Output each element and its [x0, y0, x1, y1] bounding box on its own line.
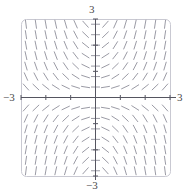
slope-segment — [113, 31, 117, 39]
slope-segment — [64, 52, 68, 60]
slope-segment — [112, 63, 118, 69]
slope-segment — [25, 156, 26, 165]
slope-segment — [154, 20, 155, 29]
slope-segment — [102, 137, 110, 142]
x-axis-max-label: 3 — [177, 92, 183, 103]
slope-segment — [123, 135, 127, 143]
slope-segment — [34, 114, 38, 122]
slope-segment — [34, 62, 37, 71]
slope-segment — [163, 114, 167, 122]
slope-segment — [54, 146, 57, 155]
slope-segment — [134, 146, 137, 155]
slope-segment — [44, 62, 47, 70]
slope-segment — [72, 63, 78, 69]
slope-segment — [74, 156, 78, 164]
slope-segment — [82, 157, 88, 163]
slope-segment — [23, 84, 29, 91]
slope-segment — [64, 166, 67, 175]
slope-segment — [153, 73, 157, 81]
slope-segment — [164, 125, 167, 134]
slope-segment — [74, 20, 78, 28]
slope-segment — [54, 125, 58, 133]
slope-segment — [124, 146, 127, 154]
slope-segment — [24, 72, 28, 80]
slope-segment — [162, 105, 168, 112]
slope-segment — [63, 62, 68, 69]
slope-segment — [35, 145, 37, 154]
slope-segment — [71, 86, 80, 89]
slope-segment — [101, 64, 109, 68]
slope-segment — [44, 135, 47, 144]
slope-segment — [152, 105, 159, 111]
slope-segment — [25, 145, 27, 154]
slope-segment — [154, 41, 156, 50]
slope-segment — [112, 74, 120, 79]
slope-segment — [81, 107, 90, 108]
slope-segment — [133, 125, 137, 133]
slope-segment — [83, 21, 89, 28]
slope-segment — [101, 75, 110, 78]
slope-segment — [114, 20, 118, 28]
slope-segment — [114, 167, 118, 175]
slope-segment — [52, 106, 60, 111]
slope-segment — [64, 156, 67, 165]
slope-segment — [131, 85, 139, 90]
slope-segment — [42, 105, 49, 111]
slope-segment — [101, 117, 110, 120]
slope-segment — [154, 51, 156, 60]
slope-segment — [45, 156, 47, 165]
slope-segment — [131, 106, 139, 111]
slope-segment — [55, 30, 57, 39]
slope-segment — [164, 145, 166, 154]
slope-segment — [64, 146, 67, 154]
slope-segment — [72, 116, 80, 121]
slope-segment — [132, 73, 138, 80]
slope-segment — [43, 115, 48, 123]
slope-segment — [124, 156, 127, 165]
x-axis-min-label: −3 — [3, 92, 15, 103]
slope-segment — [33, 84, 40, 90]
slope-segment — [62, 73, 68, 79]
slope-segment — [74, 31, 78, 39]
slope-segment — [34, 125, 37, 133]
slope-field-figure: 3 −3 −3 3 — [0, 0, 188, 195]
slope-segment — [102, 157, 108, 163]
slope-segment — [102, 32, 108, 38]
slope-segment — [82, 53, 90, 58]
slope-segment — [144, 156, 146, 165]
slope-segment — [81, 75, 90, 78]
slope-segment — [71, 107, 80, 110]
slope-segment — [72, 126, 78, 132]
slope-segment — [142, 84, 149, 90]
slope-segment — [33, 105, 40, 111]
slope-segment — [82, 64, 90, 68]
slope-segment — [144, 166, 146, 175]
slope-segment — [53, 73, 59, 80]
slope-segment — [25, 125, 28, 134]
slope-segment — [44, 125, 47, 133]
slope-segment — [122, 115, 129, 121]
slope-segment — [45, 41, 47, 50]
slope-segment — [55, 20, 57, 29]
slope-segment — [111, 107, 120, 110]
slope-segment — [102, 21, 108, 28]
slope-segment — [25, 41, 27, 50]
slope-segment — [25, 51, 27, 60]
slope-segment — [102, 53, 110, 58]
slope-segment — [82, 137, 90, 142]
slope-segment — [134, 135, 137, 143]
slope-segment — [74, 167, 78, 175]
slope-segment — [55, 166, 57, 175]
slope-segment — [35, 51, 37, 60]
plot-canvas — [0, 0, 188, 195]
slope-segment — [142, 105, 149, 111]
slope-segment — [34, 73, 38, 81]
slope-segment — [144, 145, 146, 154]
slope-segment — [45, 166, 47, 175]
slope-segment — [152, 84, 159, 90]
slope-segment — [144, 51, 147, 60]
slope-segment — [82, 32, 88, 38]
slope-segment — [55, 156, 57, 165]
slope-segment — [144, 41, 146, 50]
slope-segment — [154, 125, 157, 133]
